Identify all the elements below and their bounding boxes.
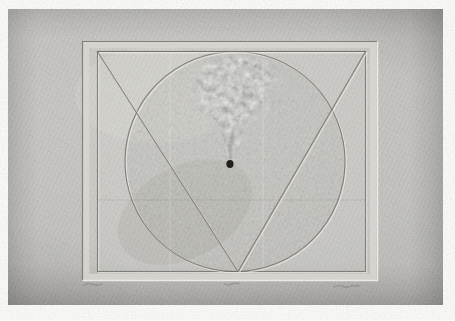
paper-laid-texture: [8, 9, 443, 305]
photo-vignette: [8, 9, 443, 305]
artwork-photograph: [8, 9, 443, 305]
